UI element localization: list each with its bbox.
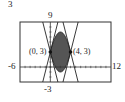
graph-window (0, 0, 125, 102)
intersection-point (49, 50, 53, 54)
intersection-point (69, 50, 73, 54)
